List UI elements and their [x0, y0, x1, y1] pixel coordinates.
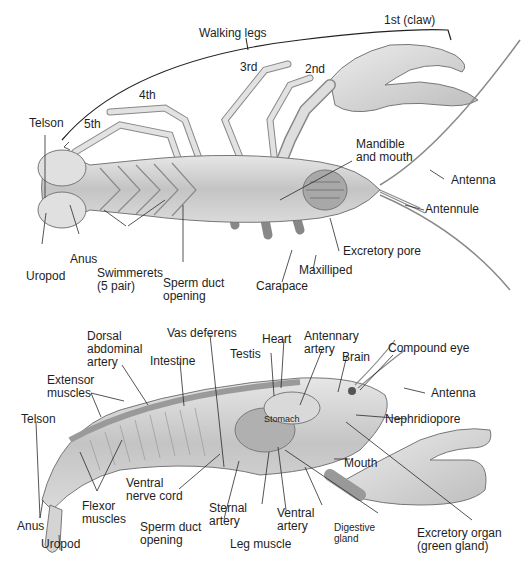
label-swimmerets-2: (5 pair): [97, 280, 135, 293]
label-leg-5th: 5th: [84, 118, 101, 131]
label-mandible-2: and mouth: [356, 151, 413, 164]
label-mouth: Mouth: [344, 457, 377, 470]
label-maxilliped: Maxilliped: [299, 264, 352, 277]
label-antenna-bottom: Antenna: [431, 387, 476, 400]
label-digestive-1: Digestive: [334, 522, 375, 533]
label-carapace: Carapace: [256, 280, 308, 293]
label-antennary-2: artery: [304, 343, 335, 356]
label-walking-legs: Walking legs: [199, 27, 267, 40]
label-leg-3rd: 3rd: [240, 61, 257, 74]
label-extensor-2: muscles: [47, 387, 91, 400]
label-uropod-bottom: Uropod: [41, 538, 80, 551]
label-sperm-duct-bottom-2: opening: [140, 534, 183, 547]
label-leg-2nd: 2nd: [305, 63, 325, 76]
label-anus-bottom: Anus: [17, 520, 44, 533]
label-leg-muscle: Leg muscle: [230, 538, 291, 551]
label-brain: Brain: [342, 351, 370, 364]
label-leg-1st-claw: 1st (claw): [384, 14, 435, 27]
label-excretory-pore: Excretory pore: [343, 245, 421, 258]
label-compound-eye: Compound eye: [388, 342, 469, 355]
label-vas-deferens: Vas deferens: [167, 327, 237, 340]
label-ventral-artery-2: artery: [277, 520, 308, 533]
label-uropod-top: Uropod: [26, 270, 65, 283]
label-sperm-duct-top-2: opening: [163, 290, 206, 303]
label-antennule: Antennule: [425, 203, 479, 216]
label-heart: Heart: [262, 333, 291, 346]
label-digestive-2: gland: [334, 533, 358, 544]
label-stomach: Stomach: [264, 414, 300, 424]
label-anus-top: Anus: [70, 253, 97, 266]
label-telson-bottom: Telson: [21, 413, 56, 426]
label-intestine: Intestine: [150, 355, 195, 368]
label-dorsal-3: artery: [87, 356, 118, 369]
label-flexor-2: muscles: [82, 513, 126, 526]
label-nephridiopore: Nephridiopore: [385, 413, 460, 426]
label-ventral-nerve-2: nerve cord: [126, 490, 183, 503]
label-excretory-organ-2: (green gland): [417, 540, 488, 553]
label-testis: Testis: [230, 348, 261, 361]
anatomy-diagram: Walking legs 1st (claw) 2nd 3rd 4th 5th …: [0, 0, 525, 565]
label-leg-4th: 4th: [139, 89, 156, 102]
ventral-view-art: [38, 30, 520, 290]
label-antenna-top: Antenna: [451, 174, 496, 187]
label-telson-top: Telson: [29, 117, 64, 130]
label-sternal-2: artery: [209, 515, 240, 528]
